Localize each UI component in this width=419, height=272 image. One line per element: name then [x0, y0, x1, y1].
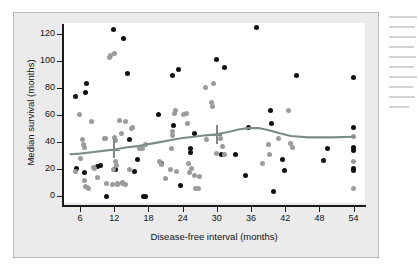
x-tick-label: 30 — [204, 214, 230, 223]
x-tick-mark — [354, 207, 355, 212]
y-tick-mark — [57, 34, 62, 35]
y-tick-label: 40 — [45, 137, 55, 146]
trend-line — [63, 23, 365, 203]
y-tick-mark — [57, 169, 62, 170]
x-tick-label: 18 — [135, 214, 161, 223]
x-tick-mark — [251, 207, 252, 212]
chart-figure: 020406080100120 61218243036424854 Median… — [0, 0, 419, 272]
y-tick-label: 120 — [40, 29, 55, 38]
y-tick-mark — [57, 88, 62, 89]
x-tick-mark — [183, 207, 184, 212]
cropped-side-column — [389, 16, 417, 136]
x-tick-label: 54 — [341, 214, 367, 223]
x-tick-mark — [285, 207, 286, 212]
y-tick-label: 20 — [45, 164, 55, 173]
y-tick-mark — [57, 115, 62, 116]
y-tick-label: 100 — [40, 56, 55, 65]
x-tick-label: 24 — [170, 214, 196, 223]
x-tick-label: 12 — [101, 214, 127, 223]
x-tick-mark — [319, 207, 320, 212]
x-axis-title: Disease-free interval (months) — [63, 231, 365, 242]
x-tick-mark — [80, 207, 81, 212]
x-tick-mark — [217, 207, 218, 212]
y-tick-mark — [57, 196, 62, 197]
y-tick-label: 0 — [50, 191, 55, 200]
x-tick-mark — [148, 207, 149, 212]
y-tick-mark — [57, 142, 62, 143]
y-tick-mark — [57, 61, 62, 62]
x-tick-label: 6 — [67, 214, 93, 223]
x-tick-mark — [114, 207, 115, 212]
y-tick-label: 60 — [45, 110, 55, 119]
x-tick-label: 36 — [238, 214, 264, 223]
y-axis-title: Median survival (months) — [25, 23, 36, 203]
y-tick-label: 80 — [45, 83, 55, 92]
x-tick-label: 48 — [306, 214, 332, 223]
x-tick-label: 42 — [272, 214, 298, 223]
